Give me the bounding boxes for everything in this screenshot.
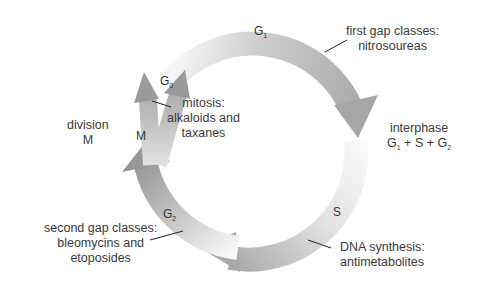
g1-sub: 1 [263, 32, 267, 39]
division-line2: M [67, 133, 109, 148]
first-gap-line1: first gap classes: [346, 24, 439, 39]
g2-sub: 2 [172, 215, 176, 222]
label-g2: G2 [163, 207, 176, 221]
g2-letter: G [163, 207, 172, 221]
dna-synthesis-line1: DNA synthesis: [340, 240, 425, 255]
interphase-g2: G [437, 136, 447, 150]
mitosis-line2: alkaloids and [167, 111, 240, 126]
division-line1: division [67, 118, 109, 133]
interphase-line2: G1 + S + G2 [387, 136, 451, 152]
interphase-g1: G [387, 136, 397, 150]
annotation-dna-synthesis: DNA synthesis: antimetabolites [340, 240, 425, 270]
annotation-interphase: interphase G1 + S + G2 [387, 121, 451, 152]
dna-synthesis-line2: antimetabolites [340, 255, 425, 270]
label-g0: G0 [160, 74, 173, 88]
label-m: M [136, 129, 146, 143]
annotation-mitosis: mitosis: alkaloids and taxanes [167, 96, 240, 141]
annotation-first-gap: first gap classes: nitrosoureas [346, 24, 439, 54]
interphase-g2-sub: 2 [447, 144, 451, 151]
second-gap-line2: bleomycins and [44, 236, 157, 251]
label-g1: G1 [254, 24, 267, 38]
m-letter: M [136, 129, 146, 143]
second-gap-line3: etoposides [44, 251, 157, 266]
annotation-second-gap: second gap classes: bleomycins and etopo… [44, 221, 157, 266]
mitosis-line3: taxanes [167, 126, 240, 141]
g0-letter: G [160, 74, 169, 88]
interphase-g1-sub: 1 [397, 144, 401, 151]
mitosis-line1: mitosis: [167, 96, 240, 111]
s-letter: S [333, 205, 341, 219]
first-gap-line2: nitrosoureas [346, 39, 439, 54]
annotation-division: division M [67, 118, 109, 148]
interphase-plus-s: + S + [401, 136, 438, 150]
g1-letter: G [254, 24, 263, 38]
leader-first-gap [325, 40, 347, 52]
interphase-line1: interphase [387, 121, 451, 136]
g0-sub: 0 [169, 82, 173, 89]
second-gap-line1: second gap classes: [44, 221, 157, 236]
label-s: S [333, 205, 341, 219]
